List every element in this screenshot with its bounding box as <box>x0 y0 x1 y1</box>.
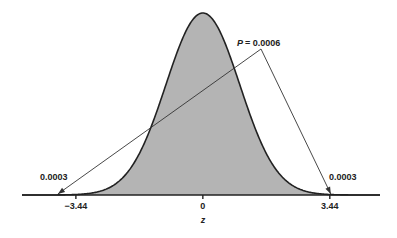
normal-distribution-chart: −3.4403.44 P= 0.0006 0.0003 0.0003 z <box>0 0 397 238</box>
x-tick-label: 3.44 <box>321 201 339 211</box>
p-value: = 0.0006 <box>245 38 280 48</box>
right-tail-label: 0.0003 <box>329 172 357 182</box>
arrowhead-left <box>58 188 65 194</box>
left-tail-label: 0.0003 <box>40 172 68 182</box>
shaded-area <box>76 13 330 195</box>
p-symbol: P <box>237 38 244 48</box>
arrowhead-right <box>325 187 330 194</box>
total-p-label: P= 0.0006 <box>237 38 280 48</box>
x-tick-label: −3.44 <box>64 201 87 211</box>
x-axis-label: z <box>200 215 206 225</box>
x-tick-label: 0 <box>200 201 205 211</box>
